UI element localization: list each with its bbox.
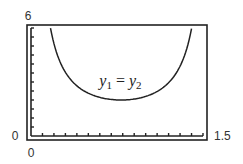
annotation-sub-2: 2	[136, 79, 142, 91]
y-min-label: 0	[12, 129, 19, 143]
x-min-label: 0	[28, 146, 35, 160]
x-max-label: 1.5	[214, 129, 231, 143]
chart: 6 0 0 1.5 y1 = y2	[0, 0, 243, 164]
y-max-label: 6	[25, 9, 32, 23]
series-line-y1-equals-y2	[50, 28, 191, 100]
curve-annotation: y1 = y2	[97, 72, 141, 91]
annotation-equals: =	[112, 72, 129, 89]
